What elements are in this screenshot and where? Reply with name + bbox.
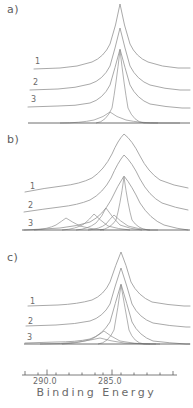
- panel-c-component-1: [40, 338, 160, 344]
- panel-b-trace-1: [25, 134, 188, 192]
- panel-c-trace-3: [25, 284, 190, 344]
- panel-c-plot: [0, 248, 193, 366]
- panel-a-curve-label-1: 1: [35, 58, 40, 66]
- panel-c-curve-label-1: 1: [30, 298, 35, 306]
- panel-b: b) 1 2 3: [0, 130, 193, 252]
- panel-b-curve-label-1: 1: [30, 183, 35, 191]
- panel-b-curve-label-3: 3: [28, 220, 33, 228]
- panel-b-curve-label-2: 2: [28, 202, 33, 210]
- panel-c-curve-label-2: 2: [28, 318, 33, 326]
- x-axis-ticks: [0, 367, 193, 381]
- panel-a-trace-3: [28, 49, 190, 108]
- panel-a-curve-label-3: 3: [31, 96, 36, 104]
- panel-b-plot: [0, 130, 193, 252]
- panel-a: a) 1 2 3: [0, 0, 193, 136]
- panel-c-curve-label-3: 3: [27, 334, 32, 342]
- xps-spectra-figure: a) 1 2 3 b): [0, 0, 193, 408]
- panel-a-component-1: [60, 112, 180, 123]
- x-tick-label-285: 285.0: [98, 378, 122, 386]
- panel-c: c) 1 2 3: [0, 248, 193, 366]
- panel-c-trace-1: [28, 252, 190, 306]
- panel-b-trace-3: [24, 176, 188, 230]
- panel-a-plot: [0, 0, 193, 136]
- panel-a-component-2: [96, 50, 158, 123]
- panel-c-component-3: [98, 285, 156, 344]
- panel-c-trace-2: [26, 268, 190, 327]
- x-axis-title: Binding Energy: [0, 386, 193, 399]
- panel-a-curve-label-2: 2: [33, 79, 38, 87]
- x-tick-label-290: 290.0: [33, 378, 57, 386]
- panel-a-trace-2: [30, 28, 190, 90]
